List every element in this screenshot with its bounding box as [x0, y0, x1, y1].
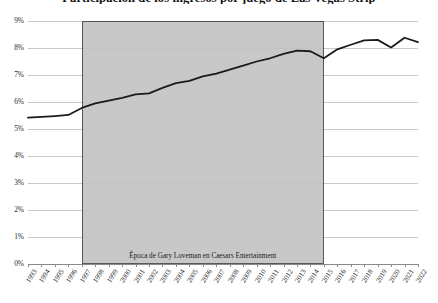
x-axis-tick [55, 264, 56, 267]
y-axis-tick-label: 6% [4, 98, 24, 106]
x-axis-tick [310, 264, 311, 267]
x-axis-tick-label: 2012 [280, 268, 294, 284]
y-axis-tick-label: 4% [4, 152, 24, 160]
x-axis-tick [136, 264, 137, 267]
x-axis-tick [378, 264, 379, 267]
y-axis-tick-label: 3% [4, 179, 24, 187]
x-axis-tick-label: 2005 [186, 268, 200, 284]
x-axis-tick [243, 264, 244, 267]
x-axis-tick [405, 264, 406, 267]
x-axis-tick-label: 2011 [267, 268, 281, 284]
x-axis-tick [230, 264, 231, 267]
y-axis-tick-label: 7% [4, 71, 24, 79]
x-axis-tick [284, 264, 285, 267]
x-axis-tick-label: 2017 [347, 268, 361, 284]
x-axis-tick-label: 2003 [159, 268, 173, 284]
x-axis-tick [68, 264, 69, 267]
x-axis-tick-label: 2018 [361, 268, 375, 284]
y-axis-tick-label: 9% [4, 17, 24, 25]
x-axis-tick [176, 264, 177, 267]
shaded-era-band [82, 21, 324, 264]
x-axis-tick-label: 1998 [92, 268, 106, 284]
x-axis-tick [297, 264, 298, 267]
x-axis-tick [189, 264, 190, 267]
x-axis-tick-label: 2014 [307, 268, 321, 284]
x-axis-tick-label: 2006 [199, 268, 213, 284]
x-axis-tick [324, 264, 325, 267]
x-axis-tick-label: 2010 [253, 268, 267, 284]
x-axis-tick [364, 264, 365, 267]
chart-container: Participación de los ingresos por juego … [0, 0, 438, 303]
x-axis-tick-label: 2020 [387, 268, 401, 284]
x-axis-tick [28, 264, 29, 267]
x-axis-tick-label: 2001 [132, 268, 146, 284]
x-axis-tick [109, 264, 110, 267]
chart-title: Participación de los ingresos por juego … [0, 0, 438, 4]
x-axis-tick-label: 1996 [65, 268, 79, 284]
x-axis-tick [95, 264, 96, 267]
x-axis-tick [203, 264, 204, 267]
x-axis-tick-label: 2007 [213, 268, 227, 284]
x-axis-tick-label: 1993 [24, 268, 38, 284]
x-axis-tick-label: 2004 [172, 268, 186, 284]
x-axis-tick-label: 1999 [105, 268, 119, 284]
x-axis-tick-label: 2008 [226, 268, 240, 284]
x-axis-tick-label: 2016 [334, 268, 348, 284]
x-axis-tick-label: 1997 [78, 268, 92, 284]
x-axis-tick [149, 264, 150, 267]
x-axis-tick [162, 264, 163, 267]
era-band-annotation-label: Época de Gary Loveman en Caesars Enterta… [82, 252, 324, 260]
x-axis-tick-label: 2015 [320, 268, 334, 284]
y-axis-tick-label: 2% [4, 206, 24, 214]
y-axis-tick-label: 5% [4, 125, 24, 133]
x-axis-tick-label: 1995 [51, 268, 65, 284]
x-axis-tick [418, 264, 419, 267]
x-axis-tick [41, 264, 42, 267]
x-axis-tick-label: 2021 [401, 268, 415, 284]
x-axis-tick-label: 2022 [414, 268, 428, 284]
x-axis-tick [216, 264, 217, 267]
x-axis-tick [82, 264, 83, 267]
x-axis-tick-label: 2009 [240, 268, 254, 284]
x-axis-tick [351, 264, 352, 267]
x-axis-tick [257, 264, 258, 267]
x-axis-tick [270, 264, 271, 267]
y-axis-tick-label: 1% [4, 233, 24, 241]
y-axis-tick-label: 8% [4, 44, 24, 52]
y-axis-tick-label: 0% [4, 260, 24, 268]
x-axis-tick-label: 2002 [145, 268, 159, 284]
x-axis-tick [337, 264, 338, 267]
x-axis-tick [391, 264, 392, 267]
x-axis-tick-label: 2013 [293, 268, 307, 284]
x-axis-tick-label: 2019 [374, 268, 388, 284]
x-axis-tick [122, 264, 123, 267]
x-axis-tick-label: 1994 [38, 268, 52, 284]
x-axis-tick-label: 2000 [119, 268, 133, 284]
plot-area [28, 21, 418, 264]
x-axis-line [28, 264, 418, 265]
